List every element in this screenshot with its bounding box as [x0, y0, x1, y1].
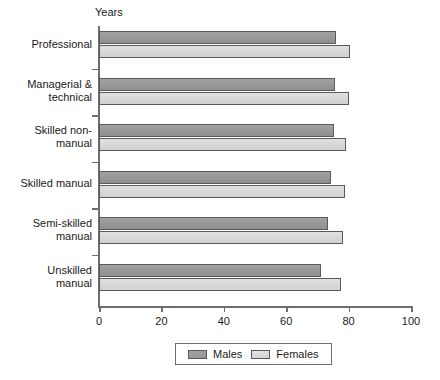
- bar-females: [99, 45, 350, 58]
- y-axis-category-label: Professional: [4, 38, 92, 51]
- bar-males: [99, 124, 334, 137]
- x-axis-tick-label: 60: [266, 315, 306, 328]
- x-axis-tick: [286, 306, 288, 312]
- bar-group: [99, 31, 411, 61]
- bar-group: [99, 217, 411, 247]
- bar-females: [99, 278, 341, 291]
- legend-item: Males: [188, 348, 242, 360]
- label-line: Unskilled: [4, 264, 92, 277]
- x-axis-tick-label: 80: [329, 315, 369, 328]
- bar-males: [99, 171, 331, 184]
- bar-males: [99, 78, 335, 91]
- label-line: Skilled manual: [4, 177, 92, 190]
- bar-males: [99, 217, 328, 230]
- bar-group: [99, 264, 411, 294]
- x-axis-tick-label: 0: [79, 315, 119, 328]
- bar-females: [99, 92, 349, 105]
- y-axis-category-label: Unskilledmanual: [4, 264, 92, 290]
- legend-item: Females: [251, 348, 318, 360]
- y-axis-tick: [92, 255, 99, 257]
- y-axis-tick: [92, 69, 99, 71]
- legend-swatch-icon: [251, 350, 270, 359]
- label-line: Managerial &: [4, 78, 92, 91]
- label-line: Semi-skilled: [4, 217, 92, 230]
- y-axis-category-label: Skilled non-manual: [4, 124, 92, 150]
- label-line: Professional: [4, 38, 92, 51]
- label-line: technical: [4, 91, 92, 104]
- x-axis-line: [98, 306, 412, 308]
- legend-label: Females: [276, 348, 318, 360]
- y-axis-tick: [92, 208, 99, 210]
- bar-males: [99, 264, 321, 277]
- axis-unit-label: Years: [95, 6, 123, 19]
- y-axis-tick: [92, 115, 99, 117]
- bar-group: [99, 78, 411, 108]
- y-axis-category-label: Skilled manual: [4, 177, 92, 190]
- label-line: manual: [4, 137, 92, 150]
- x-axis-tick: [99, 306, 101, 312]
- plot-area: [99, 26, 411, 306]
- bar-males: [99, 31, 336, 44]
- legend-label: Males: [213, 348, 242, 360]
- x-axis-tick: [411, 306, 413, 312]
- bar-females: [99, 231, 343, 244]
- legend-swatch-icon: [188, 350, 207, 359]
- x-axis-tick: [161, 306, 163, 312]
- x-axis-tick-label: 100: [391, 315, 431, 328]
- x-axis-tick-label: 20: [141, 315, 181, 328]
- bar-females: [99, 185, 345, 198]
- label-line: manual: [4, 230, 92, 243]
- y-axis-category-label: Semi-skilledmanual: [4, 217, 92, 243]
- y-axis-tick: [92, 162, 99, 164]
- grouped-bar-chart: Years ProfessionalManagerial &technicalS…: [0, 0, 440, 380]
- bar-group: [99, 124, 411, 154]
- label-line: manual: [4, 277, 92, 290]
- chart-legend: MalesFemales: [175, 343, 332, 365]
- x-axis-tick-label: 40: [204, 315, 244, 328]
- bar-females: [99, 138, 346, 151]
- label-line: Skilled non-: [4, 124, 92, 137]
- x-axis-tick: [224, 306, 226, 312]
- bar-group: [99, 171, 411, 201]
- x-axis-tick: [349, 306, 351, 312]
- y-axis-category-label: Managerial &technical: [4, 78, 92, 104]
